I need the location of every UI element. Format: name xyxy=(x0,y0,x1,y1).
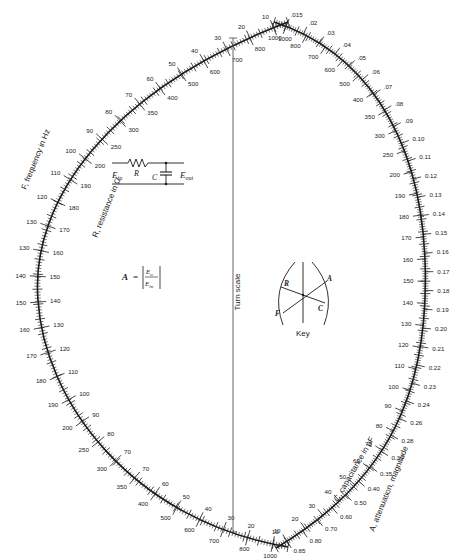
key-label-c: C xyxy=(318,304,324,313)
scale-tick-label: 170 xyxy=(26,352,37,359)
label-tick xyxy=(363,463,369,468)
label-tick xyxy=(412,346,420,347)
scale-tick-label: 200 xyxy=(95,162,106,169)
right-scale: .015.02.03.04.05.06.07.08.090.100.110.12… xyxy=(268,11,450,554)
scale-tick xyxy=(36,307,42,308)
scale-tick-label: 0.80 xyxy=(309,537,322,544)
label-tick xyxy=(85,159,91,164)
label-tick xyxy=(51,199,58,203)
scale-tick-label: 0.40 xyxy=(368,485,381,492)
left-scale: 1020304050607080901001101201301301401501… xyxy=(15,13,292,559)
scale-tick xyxy=(37,316,43,317)
scale-tick-label: 1000 xyxy=(263,552,277,559)
scale-tick-label: 190 xyxy=(48,401,59,408)
label-tick xyxy=(196,519,199,526)
label-tick xyxy=(415,325,423,326)
scale-tick-label: 80 xyxy=(107,430,114,437)
label-tick xyxy=(401,140,408,143)
scale-tick-label: 100 xyxy=(79,390,90,397)
key-label-f: F xyxy=(275,309,280,318)
scale-tick xyxy=(419,244,429,245)
capacitor-label: C xyxy=(152,173,158,182)
scale-tick-label: 160 xyxy=(19,326,30,333)
scale-tick xyxy=(36,262,42,263)
scale-tick-label: 0.24 xyxy=(418,401,431,408)
label-tick xyxy=(150,494,155,501)
scale-tick-label: 90 xyxy=(92,411,99,418)
scale-tick-label: 500 xyxy=(188,80,199,87)
scale-tick-label: 0.19 xyxy=(437,306,450,313)
label-tick xyxy=(413,215,421,216)
scale-tick-label: 350 xyxy=(365,113,376,120)
scale-tick-label: 140 xyxy=(50,297,61,304)
scale-tick-label: 400 xyxy=(138,500,149,507)
capacitance-axis-title: C, capacitance in μF xyxy=(332,435,376,503)
scale-tick xyxy=(294,531,300,539)
key-label-a: A xyxy=(326,274,332,283)
label-tick xyxy=(57,373,64,376)
scale-tick-label: 0.26 xyxy=(410,419,423,426)
scale-tick-label: 150 xyxy=(50,273,61,280)
label-tick xyxy=(421,215,429,216)
scale-tick-label: .04 xyxy=(342,41,351,48)
scale-tick xyxy=(421,239,427,240)
label-tick xyxy=(283,534,287,541)
scale-tick-label: 100 xyxy=(66,147,77,154)
scale-tick-label: 50 xyxy=(168,60,175,67)
label-tick xyxy=(423,234,431,235)
scale-tick-label: 250 xyxy=(111,143,122,150)
scale-tick-label: 110 xyxy=(394,362,404,369)
label-tick xyxy=(129,478,134,484)
right-scale-labels: .015.02.03.04.05.06.07.08.090.100.110.12… xyxy=(268,11,450,554)
scale-tick-label: .08 xyxy=(395,100,404,107)
scale-tick-label: 0.28 xyxy=(402,437,415,444)
label-tick xyxy=(200,512,203,519)
scale-tick-label: 40 xyxy=(324,488,331,495)
resistance-axis-title: R, resistance in Ω xyxy=(91,177,123,239)
scale-tick xyxy=(420,229,426,230)
scale-tick-label: 0.85 xyxy=(293,547,306,554)
label-tick xyxy=(362,74,368,79)
scale-tick-label: 70 xyxy=(142,465,149,472)
scale-tick-label: .06 xyxy=(371,68,380,75)
label-tick xyxy=(58,202,65,206)
scale-tick-label: 170 xyxy=(401,234,412,241)
turn-scale-label: Turn scale xyxy=(233,273,242,311)
label-tick xyxy=(156,82,161,89)
scale-tick-label: 0.10 xyxy=(412,135,425,142)
scale-tick-label: 110 xyxy=(68,368,78,375)
label-tick xyxy=(160,89,165,96)
label-tick xyxy=(41,251,49,253)
label-tick xyxy=(384,106,391,110)
label-tick xyxy=(223,42,227,49)
label-tick xyxy=(366,93,372,98)
scale-tick-label: 140 xyxy=(403,299,414,306)
scale-tick-label: 190 xyxy=(395,192,406,199)
scale-tick-label: 800 xyxy=(290,42,301,49)
label-tick xyxy=(399,418,406,421)
scale-tick-label: 60 xyxy=(146,75,153,82)
scale-tick-label: 80 xyxy=(105,108,112,115)
scale-tick-label: 250 xyxy=(383,151,394,158)
scale-tick-label: 100 xyxy=(388,383,399,390)
label-tick xyxy=(318,509,323,515)
scale-tick xyxy=(420,323,426,324)
scale-tick xyxy=(33,304,43,305)
scale-tick-label: 300 xyxy=(97,465,108,472)
scale-tick-label: 0.18 xyxy=(437,287,450,294)
scale-tick xyxy=(419,338,425,339)
label-tick xyxy=(303,531,308,538)
scale-tick-label: 200 xyxy=(390,171,401,178)
scale-tick-label: 180 xyxy=(69,204,80,211)
scale-tick xyxy=(36,265,42,266)
scale-tick-label: 500 xyxy=(340,80,351,87)
scale-tick xyxy=(418,231,428,232)
scale-tick-label: 600 xyxy=(325,66,336,73)
label-tick xyxy=(391,435,398,439)
formula-numerator: Eo xyxy=(145,268,153,277)
label-tick xyxy=(247,31,250,38)
scale-tick xyxy=(304,524,310,532)
label-tick xyxy=(42,326,50,328)
scale-tick-label: 130 xyxy=(401,320,412,327)
label-tick xyxy=(423,328,431,329)
